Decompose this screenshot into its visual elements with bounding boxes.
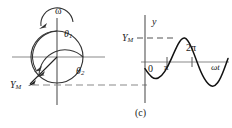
omega-label: ω [55,6,62,16]
figure-container: ω θ1 θ2 YM y YM 0 π 2π ωt (c) [0,0,232,128]
y-axis-label: y [152,17,156,27]
theta2-label: θ2 [76,66,84,77]
theta1-label: θ1 [64,29,72,40]
figure-vector-layer [0,0,232,128]
ym-label-phasor: YM [10,80,21,91]
ym-subscript-waveform: M [128,36,134,43]
ym-subscript-phasor: M [16,83,22,90]
waveform-plot-group [137,15,229,103]
figure-caption: (c) [135,108,146,118]
xtick-label-pi: π [164,63,169,72]
ym-label-waveform: YM [122,33,133,44]
phasor-diagram-group [12,8,147,105]
x-axis-label: ωt [211,63,220,72]
origin-label: 0 [148,64,153,74]
theta2-subscript: 2 [81,69,84,76]
theta1-arc [32,31,57,70]
theta1-subscript: 1 [69,32,72,39]
omega-rotation-arrowhead [39,23,47,29]
xtick-label-2pi: 2π [186,43,196,53]
